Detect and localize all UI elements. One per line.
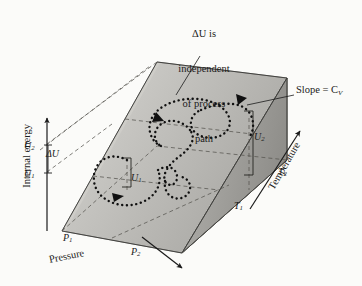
axis-tick-u1: U1 [24,168,35,180]
axis-tick-u2: U2 [24,140,35,152]
slope-annotation-subscript: V [338,89,342,97]
axis-tick-p1: P1 [63,232,73,244]
axis-tick-p2-subscript: 2 [137,250,140,257]
process-path-annotation: ΔU is independent of process path [148,4,260,169]
surface-marker-u1: U1 [131,172,142,184]
axis-tick-u1-subscript: 1 [31,172,34,179]
axis-tick-p1-subscript: 1 [69,236,72,243]
delta-u-label: ΔU [46,148,59,159]
annotation-line-3: of process [148,98,260,110]
internal-energy-axis [44,118,52,231]
axis-tick-p2: P2 [131,246,141,258]
annotation-line-1: ΔU is [148,28,260,40]
axis-tick-t2: T2 [278,166,287,178]
internal-energy-axis-label: Internal energy [21,114,33,198]
annotation-line-2: independent [148,63,260,75]
annotation-line-4: path [148,133,260,145]
thermodynamics-internal-energy-figure: ΔU is independent of process path Slope … [0,0,362,286]
axis-tick-u2-subscript: 2 [31,144,34,151]
surface-marker-u2: U2 [254,131,265,143]
slope-annotation: Slope = CV [296,84,342,97]
surface-marker-u1-subscript: 1 [138,176,141,183]
axis-tick-t2-subscript: 2 [284,170,287,177]
slope-annotation-text: Slope = C [296,84,338,95]
axis-tick-t1-subscript: 1 [240,204,243,211]
surface-marker-u2-subscript: 2 [261,135,264,142]
axis-tick-t1: T1 [234,200,243,212]
